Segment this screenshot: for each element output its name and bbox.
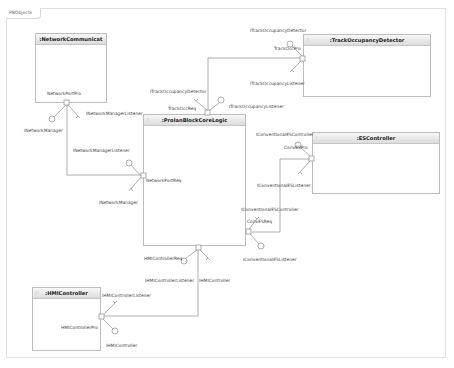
- port-conv-es-req: [246, 229, 251, 234]
- socket-inetwork-manager-listener: [76, 116, 80, 118]
- label-inetwork-manager-listener: INetworkManagerListener: [86, 111, 143, 116]
- socket-itrack-occ-listener: [290, 70, 294, 72]
- socket-itrack-occ-detector: [194, 99, 198, 101]
- connector-layer: [0, 0, 454, 368]
- label-ihmi-controller-listener: IHMIControllerListener: [102, 293, 151, 298]
- lollipop-inetwork-manager-listener: [126, 160, 132, 166]
- label-itrack-occ-listener: ITrackOccupancyListener: [229, 104, 284, 109]
- port-track-occ-pro: [300, 56, 305, 61]
- socket-iconv-es-listener: [298, 172, 302, 174]
- port-track-occ-req: [205, 110, 210, 115]
- label-hmi-controller-pro: HMIControllerPro: [61, 325, 98, 330]
- label-network-port-pro: NetworkPortPro: [47, 91, 81, 96]
- label-network-port-req: NetworkPortReq: [146, 178, 181, 183]
- label-iconv-es-controller: IConventionalESController: [256, 132, 313, 137]
- socket-ihmi-controller: [206, 258, 210, 260]
- label-ihmi-controller: IHMIController: [106, 343, 137, 348]
- label-iconv-es-controller: IConventionalESController: [241, 207, 298, 212]
- label-conv-es-req: ConvESReq: [247, 219, 272, 224]
- port-conv-es-pro: [309, 156, 314, 161]
- label-iconv-es-listener: IConventionalESListener: [243, 257, 296, 262]
- label-ihmi-controller: IHMIController: [199, 278, 230, 283]
- label-iconv-es-listener: IConventionalESListener: [257, 183, 310, 188]
- lollipop-itrack-occ-listener: [218, 97, 224, 103]
- port-hmi-controller-req: [196, 245, 201, 250]
- label-track-occ-pro: TrackOccPro: [274, 46, 301, 51]
- port-network-pro: [64, 100, 69, 105]
- lollipop-iconv-es-listener: [258, 243, 264, 249]
- label-inetwork-manager-listener: INetworkManagerListener: [73, 148, 130, 153]
- socket-inetwork-manager: [129, 188, 133, 191]
- label-conv-es-pro: ConvESPro: [284, 145, 308, 150]
- label-itrack-occ-listener: ITrackOccupancyListener: [250, 81, 305, 86]
- label-hmi-controller-req: HMIControllerReq: [144, 256, 182, 261]
- port-hmi-controller-pro: [99, 314, 104, 319]
- lollipop-ihmi-controller: [112, 328, 118, 334]
- label-inetwork-manager: INetworkManager: [24, 128, 63, 133]
- label-ihmi-controller-listener: IHMIControllerListener: [145, 278, 194, 283]
- label-itrack-occ-detector: ITrackOccupancyDetector: [150, 89, 206, 94]
- lollipop-inetwork-manager: [49, 116, 55, 122]
- label-inetwork-manager: INetworkManager: [99, 200, 138, 205]
- label-itrack-occ-detector: ITrackOccupancyDetector: [250, 28, 306, 33]
- socket-ihmi-controller-listener: [113, 301, 117, 303]
- label-track-occ-req: TrackOccReq: [168, 106, 196, 111]
